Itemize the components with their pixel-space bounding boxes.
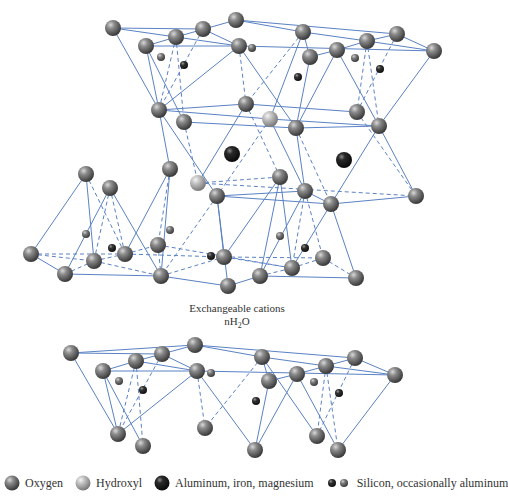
- oxygen-atom: [309, 428, 325, 444]
- hidden-bond-line: [224, 257, 323, 258]
- silicon-spheres-icon: [326, 475, 352, 491]
- oxygen-atom: [348, 270, 364, 286]
- legend-label: Silicon, occasionally aluminum: [357, 476, 508, 491]
- silicon-dark-atom: [139, 386, 147, 394]
- oxygen-atom: [187, 337, 203, 353]
- oxygen-atom: [110, 426, 126, 442]
- oxygen-atom: [329, 42, 345, 58]
- metal-atom: [336, 152, 352, 168]
- metal-atom: [224, 146, 240, 162]
- oxygen-atom: [347, 350, 363, 366]
- bond-line: [198, 104, 246, 183]
- oxygen-sphere-icon: [4, 475, 20, 491]
- oxygen-atom: [231, 38, 247, 54]
- hidden-bond-line: [94, 261, 161, 276]
- interlayer-caption: Exchangeable cations: [0, 302, 474, 315]
- bond-line: [197, 371, 255, 450]
- oxygen-atom: [128, 353, 144, 369]
- oxygen-atom: [349, 104, 365, 120]
- bond-line: [236, 20, 397, 34]
- oxygen-atom: [195, 21, 211, 37]
- bond-line: [159, 46, 239, 110]
- silicon-dark-atom: [294, 73, 302, 81]
- legend-label: Aluminum, iron, magnesium: [175, 476, 314, 491]
- bond-line: [113, 28, 176, 37]
- oxygen-atom: [228, 12, 244, 28]
- bond-line: [71, 353, 118, 434]
- oxygen-atom: [176, 114, 192, 130]
- bond-line: [303, 32, 367, 41]
- formula-o: O: [242, 315, 250, 327]
- oxygen-atom: [209, 188, 225, 204]
- bond-line: [338, 375, 395, 450]
- legend-label: Hydroxyl: [96, 476, 142, 491]
- hidden-bond-line: [205, 357, 262, 428]
- hidden-bond-line: [367, 41, 379, 126]
- clay-mineral-structure-diagram: [0, 0, 474, 465]
- bond-line: [118, 371, 197, 434]
- oxygen-atom: [153, 268, 169, 284]
- oxygen-atom: [162, 161, 178, 177]
- oxygen-atom: [297, 183, 313, 199]
- bond-line: [331, 204, 356, 278]
- legend-item-silicon: Silicon, occasionally aluminum: [326, 475, 508, 491]
- oxygen-atom: [238, 96, 254, 112]
- legend-item-oxygen: Oxygen: [4, 475, 63, 491]
- atom-spheres: [23, 12, 442, 458]
- oxygen-atom: [252, 268, 268, 284]
- silicon-light-atom: [166, 226, 174, 234]
- oxygen-atom: [426, 43, 442, 59]
- oxygen-atom: [105, 20, 121, 36]
- oxygen-atom: [284, 260, 300, 276]
- silicon-dark-atom: [335, 389, 343, 397]
- silicon-dark-atom: [207, 252, 215, 260]
- hidden-bond-line: [184, 122, 198, 183]
- hidden-bond-line: [161, 196, 217, 276]
- bond-line: [379, 51, 434, 126]
- hidden-bond-line: [94, 188, 110, 261]
- bond-line: [71, 345, 195, 353]
- bond-line: [71, 353, 162, 354]
- hydroxyl-atom: [262, 111, 278, 127]
- bond-line: [280, 177, 292, 268]
- silicon-light-atom: [248, 44, 256, 52]
- silicon-light-atom: [82, 230, 90, 238]
- oxygen-atom: [168, 29, 184, 45]
- hydroxyl-sphere-icon: [75, 475, 91, 491]
- oxygen-atom: [63, 345, 79, 361]
- silicon-dark-atom: [376, 65, 384, 73]
- oxygen-atom: [117, 246, 133, 262]
- bond-line: [195, 345, 262, 357]
- oxygen-atom: [272, 169, 288, 185]
- oxygen-atom: [288, 120, 304, 136]
- formula-h: nH: [224, 315, 237, 327]
- oxygen-atom: [247, 442, 263, 458]
- silicon-dark-atom: [252, 397, 260, 405]
- silicon-dark-atom: [108, 244, 116, 252]
- legend-label: Oxygen: [25, 476, 63, 491]
- oxygen-atom: [189, 363, 205, 379]
- oxygen-atom: [318, 358, 334, 374]
- bond-lines: [31, 20, 434, 450]
- oxygen-atom: [151, 102, 167, 118]
- bond-line: [255, 381, 269, 450]
- oxygen-atom: [216, 249, 232, 265]
- bond-line: [262, 357, 326, 366]
- bond-line: [161, 169, 170, 276]
- oxygen-atom: [95, 363, 111, 379]
- bond-line: [65, 274, 161, 276]
- bond-line: [331, 196, 416, 204]
- oxygen-atom: [261, 373, 277, 389]
- oxygen-atom: [371, 118, 387, 134]
- bond-line: [296, 50, 337, 128]
- bond-line: [184, 122, 296, 128]
- bond-line: [217, 196, 228, 286]
- bond-line: [161, 276, 228, 286]
- oxygen-atom: [323, 196, 339, 212]
- silicon-light-atom: [207, 369, 215, 377]
- bond-line: [113, 28, 159, 110]
- silicon-light-atom: [157, 53, 165, 61]
- oxygen-atom: [254, 349, 270, 365]
- oxygen-atom: [295, 24, 311, 40]
- silicon-dark-atom: [301, 244, 309, 252]
